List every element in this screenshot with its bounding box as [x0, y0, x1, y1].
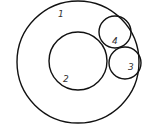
label-4: 4	[112, 36, 118, 46]
circle-3	[109, 47, 141, 79]
circles-diagram: 1 2 4 3	[0, 0, 146, 129]
circle-1-outer	[17, 1, 139, 123]
label-1: 1	[58, 9, 64, 19]
label-3: 3	[128, 62, 134, 72]
circle-2	[49, 32, 107, 90]
label-2: 2	[63, 74, 69, 84]
